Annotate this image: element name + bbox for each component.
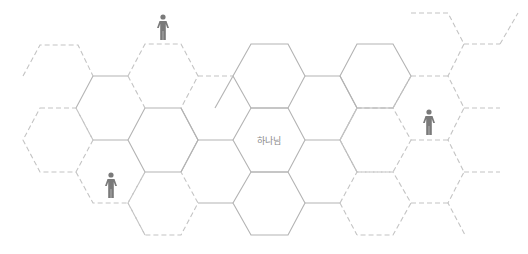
hexagon-grid [0,0,528,254]
dashed-edges [23,13,518,235]
hex-bottom-center [233,172,305,235]
hex-center-left [128,108,198,172]
person-icon [422,109,436,135]
center-hex-label: 하나님 [257,134,282,147]
solid-edges [76,44,411,235]
person-icon [104,172,118,198]
hex-top-right [340,44,411,108]
person-icon [156,14,170,40]
hex-top-center [233,44,305,108]
